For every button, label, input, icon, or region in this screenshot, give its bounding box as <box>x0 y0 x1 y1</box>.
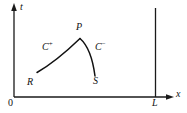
point-label-r: R <box>27 77 33 87</box>
boundary-label-L: L <box>152 98 158 108</box>
c-minus-base: C <box>95 41 102 52</box>
x-axis-arrow-icon <box>166 94 174 100</box>
point-label-p: P <box>76 22 82 32</box>
c-minus-label: C− <box>95 41 106 52</box>
c-minus-sign: − <box>102 40 106 48</box>
c-minus-characteristic-curve <box>80 39 95 77</box>
diagram-canvas <box>0 0 187 113</box>
origin-label: 0 <box>8 98 13 108</box>
c-plus-base: C <box>42 41 49 52</box>
x-axis-label: x <box>176 89 180 99</box>
t-axis-arrow-icon <box>11 3 17 11</box>
characteristics-diagram: t x 0 L P R S C+ C− <box>0 0 187 113</box>
c-plus-sign: + <box>49 40 53 48</box>
point-label-s: S <box>93 76 98 86</box>
t-axis-label: t <box>20 2 23 12</box>
c-plus-label: C+ <box>42 41 53 52</box>
